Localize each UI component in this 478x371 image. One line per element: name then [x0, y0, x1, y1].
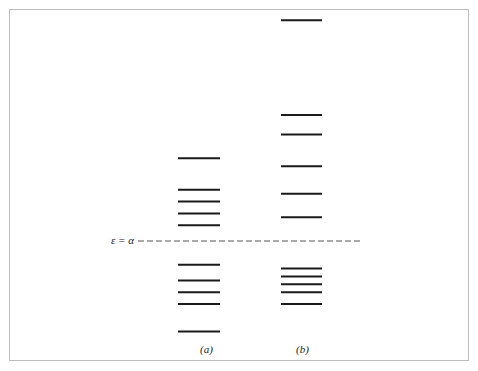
column-label-a: (a): [200, 343, 213, 356]
column-label-b: (b): [296, 343, 309, 356]
energy-level-diagram: ε = α (a) (b): [0, 0, 478, 371]
reference-line-label: ε = α: [111, 234, 134, 246]
